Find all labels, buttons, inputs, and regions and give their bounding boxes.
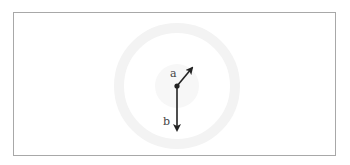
vector-diagram: a b [0,0,350,165]
origin-dot [174,83,179,88]
vector-b-label: b [163,115,170,128]
vector-a-label: a [170,67,177,80]
